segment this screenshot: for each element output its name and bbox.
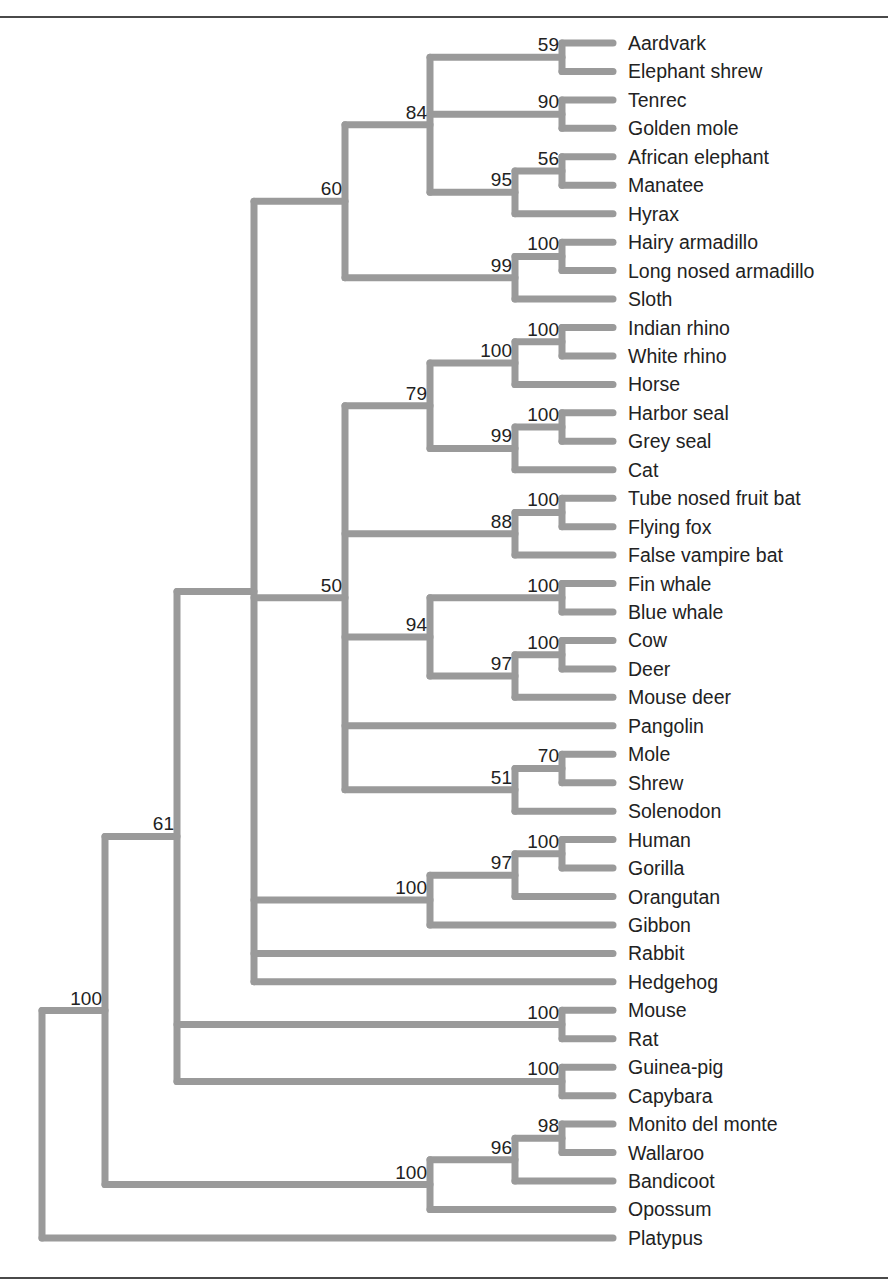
support-value: 100 <box>527 632 559 653</box>
taxon-label: Capybara <box>628 1085 713 1107</box>
taxon-label: Rabbit <box>628 942 685 964</box>
support-value: 99 <box>491 255 512 276</box>
taxon-label: Cat <box>628 459 659 481</box>
support-value: 100 <box>527 404 559 425</box>
support-value: 100 <box>527 1058 559 1079</box>
support-value: 97 <box>491 852 512 873</box>
taxon-label: Deer <box>628 658 671 680</box>
taxon-label: Elephant shrew <box>628 60 763 82</box>
support-value: 97 <box>491 653 512 674</box>
taxon-label: Horse <box>628 373 680 395</box>
taxon-label: Mole <box>628 743 670 765</box>
support-value: 100 <box>527 489 559 510</box>
support-value: 88 <box>491 511 512 532</box>
support-value: 100 <box>395 1162 427 1183</box>
taxon-label: White rhino <box>628 345 727 367</box>
support-value: 100 <box>480 340 512 361</box>
support-value: 100 <box>527 319 559 340</box>
taxon-labels: AardvarkElephant shrewTenrecGolden moleA… <box>628 32 815 1249</box>
support-value: 59 <box>538 34 559 55</box>
support-value: 100 <box>527 575 559 596</box>
taxon-label: Aardvark <box>628 32 706 54</box>
support-value: 100 <box>395 877 427 898</box>
support-value: 84 <box>406 102 428 123</box>
taxon-label: Harbor seal <box>628 402 729 424</box>
phylogenetic-tree: 5990569584100996010010010099791008810010… <box>0 0 888 1285</box>
support-value: 56 <box>538 148 559 169</box>
taxon-label: Pangolin <box>628 715 704 737</box>
taxon-label: Hedgehog <box>628 971 718 993</box>
taxon-label: Indian rhino <box>628 317 730 339</box>
taxon-label: Monito del monte <box>628 1113 778 1135</box>
support-value: 70 <box>538 745 559 766</box>
support-value: 94 <box>406 614 428 635</box>
support-value: 60 <box>321 178 342 199</box>
taxon-label: Bandicoot <box>628 1170 715 1192</box>
taxon-label: Solenodon <box>628 800 721 822</box>
taxon-label: Mouse <box>628 999 687 1021</box>
taxon-label: Flying fox <box>628 516 712 538</box>
support-value: 100 <box>527 1002 559 1023</box>
taxon-label: Manatee <box>628 174 704 196</box>
taxon-label: Shrew <box>628 772 684 794</box>
support-value: 99 <box>491 425 512 446</box>
taxon-label: Orangutan <box>628 886 720 908</box>
support-value: 100 <box>527 233 559 254</box>
support-value: 51 <box>491 767 512 788</box>
support-value: 100 <box>527 831 559 852</box>
taxon-label: Fin whale <box>628 573 711 595</box>
taxon-label: Tube nosed fruit bat <box>628 487 801 509</box>
taxon-label: Mouse deer <box>628 686 731 708</box>
support-value: 98 <box>538 1115 559 1136</box>
support-value: 96 <box>491 1137 512 1158</box>
taxon-label: Grey seal <box>628 430 711 452</box>
taxon-label: Golden mole <box>628 117 739 139</box>
taxon-label: Platypus <box>628 1227 703 1249</box>
bottom-rule <box>0 1277 888 1279</box>
taxon-label: Guinea-pig <box>628 1056 723 1078</box>
taxon-label: African elephant <box>628 146 770 168</box>
taxon-label: Opossum <box>628 1198 711 1220</box>
taxon-label: Rat <box>628 1028 659 1050</box>
taxon-label: Wallaroo <box>628 1142 704 1164</box>
taxon-label: Gibbon <box>628 914 691 936</box>
taxon-label: Long nosed armadillo <box>628 260 815 282</box>
bootstrap-support-values: 5990569584100996010010010099791008810010… <box>70 34 559 1182</box>
support-value: 50 <box>321 575 342 596</box>
taxon-label: Tenrec <box>628 89 687 111</box>
taxon-label: Gorilla <box>628 857 685 879</box>
support-value: 100 <box>70 988 102 1009</box>
support-value: 61 <box>153 813 174 834</box>
taxon-label: Hairy armadillo <box>628 231 758 253</box>
support-value: 95 <box>491 169 512 190</box>
taxon-label: Human <box>628 829 691 851</box>
taxon-label: False vampire bat <box>628 544 784 566</box>
support-value: 79 <box>406 383 427 404</box>
taxon-label: Cow <box>628 629 668 651</box>
taxon-label: Hyrax <box>628 203 679 225</box>
taxon-label: Sloth <box>628 288 672 310</box>
support-value: 90 <box>538 91 559 112</box>
taxon-label: Blue whale <box>628 601 723 623</box>
